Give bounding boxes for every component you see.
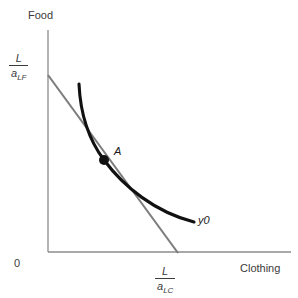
- x-axis-title: Clothing: [240, 263, 280, 274]
- y-intercept-label: L aLF: [9, 52, 28, 82]
- x-intercept-numerator: L: [155, 265, 175, 278]
- tangency-point-marker: [99, 155, 109, 165]
- budget-line: [48, 75, 178, 253]
- diagram-canvas: [0, 0, 298, 298]
- indifference-curve-label: y0: [198, 215, 210, 226]
- y-intercept-denominator: aLF: [9, 66, 28, 82]
- y-intercept-numerator: L: [9, 52, 28, 65]
- y-axis-title: Food: [28, 10, 53, 21]
- y-intercept-denominator-subscript: LF: [17, 73, 26, 82]
- indifference-curve-label-subscript: 0: [204, 214, 210, 226]
- x-intercept-label: L aLC: [155, 265, 175, 295]
- tangency-point-label: A: [114, 146, 121, 157]
- x-intercept-denominator: aLC: [155, 279, 175, 295]
- indifference-curve: [79, 84, 194, 222]
- x-intercept-denominator-subscript: LC: [163, 286, 173, 295]
- economics-indifference-curve-diagram: Food Clothing 0 L aLF L aLC A y0: [0, 0, 298, 298]
- origin-label: 0: [14, 258, 20, 269]
